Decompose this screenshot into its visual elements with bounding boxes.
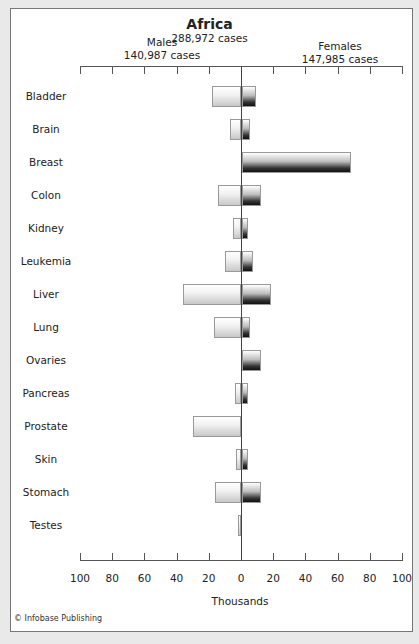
axis-tick: [338, 553, 339, 561]
female-bar: [242, 449, 248, 470]
x-tick-label: 100: [65, 572, 95, 584]
male-bar: [218, 185, 241, 206]
x-tick-label: 80: [97, 572, 127, 584]
axis-tick: [338, 66, 339, 74]
axis-tick: [273, 66, 274, 74]
category-label: Brain: [6, 122, 86, 136]
female-bar: [242, 383, 248, 404]
credit-text: © Infobase Publishing: [14, 614, 102, 623]
axis-tick: [80, 66, 81, 74]
female-bar: [242, 350, 261, 371]
axis-tick: [112, 553, 113, 561]
x-tick-label: 20: [194, 572, 224, 584]
males-cases: 140,987 cases: [112, 49, 212, 62]
axis-tick: [209, 66, 210, 74]
category-label: Colon: [6, 188, 86, 202]
category-label: Ovaries: [6, 353, 86, 367]
category-label: Prostate: [6, 419, 86, 433]
axis-tick: [305, 66, 306, 74]
x-tick-label: 100: [387, 572, 417, 584]
male-bar: [230, 119, 241, 140]
category-label: Leukemia: [6, 254, 86, 268]
male-bar: [235, 383, 241, 404]
category-label: Liver: [6, 287, 86, 301]
female-bar: [242, 482, 261, 503]
axis-tick: [177, 553, 178, 561]
x-tick-label: 60: [323, 572, 353, 584]
x-tick-label: 20: [258, 572, 288, 584]
females-legend: Females 147,985 cases: [290, 40, 390, 66]
x-tick-label: 40: [162, 572, 192, 584]
x-tick-label: 40: [290, 572, 320, 584]
axis-tick: [144, 66, 145, 74]
male-bar: [238, 515, 241, 536]
category-label: Pancreas: [6, 386, 86, 400]
female-bar: [242, 218, 248, 239]
male-bar: [214, 317, 241, 338]
axis-tick: [305, 553, 306, 561]
axis-tick: [370, 553, 371, 561]
female-bar: [242, 251, 253, 272]
x-axis-label: Thousands: [0, 595, 419, 607]
male-bar: [212, 86, 241, 107]
axis-tick: [370, 66, 371, 74]
female-bar: [242, 185, 261, 206]
males-legend: Males 140,987 cases: [112, 36, 212, 62]
male-bar: [225, 251, 241, 272]
x-tick-label: 60: [129, 572, 159, 584]
female-bar: [242, 284, 271, 305]
axis-tick: [273, 553, 274, 561]
chart-title: Africa: [0, 16, 419, 32]
x-tick-label: 0: [226, 572, 256, 584]
category-label: Stomach: [6, 485, 86, 499]
axis-tick: [80, 553, 81, 561]
category-label: Lung: [6, 320, 86, 334]
category-label: Kidney: [6, 221, 86, 235]
male-bar: [183, 284, 241, 305]
category-label: Bladder: [6, 89, 86, 103]
females-cases: 147,985 cases: [290, 53, 390, 66]
female-bar: [242, 86, 256, 107]
male-bar: [236, 449, 241, 470]
category-label: Breast: [6, 155, 86, 169]
axis-tick: [144, 553, 145, 561]
males-label: Males: [112, 36, 212, 49]
male-bar: [233, 218, 241, 239]
axis-tick: [209, 553, 210, 561]
axis-tick: [112, 66, 113, 74]
male-bar: [193, 416, 241, 437]
axis-tick: [177, 66, 178, 74]
female-bar: [242, 119, 250, 140]
x-tick-label: 80: [355, 572, 385, 584]
female-bar: [242, 317, 250, 338]
female-bar: [242, 152, 351, 173]
category-label: Skin: [6, 452, 86, 466]
axis-tick: [402, 66, 403, 74]
females-label: Females: [290, 40, 390, 53]
category-label: Testes: [6, 518, 86, 532]
male-bar: [215, 482, 241, 503]
axis-tick: [402, 553, 403, 561]
